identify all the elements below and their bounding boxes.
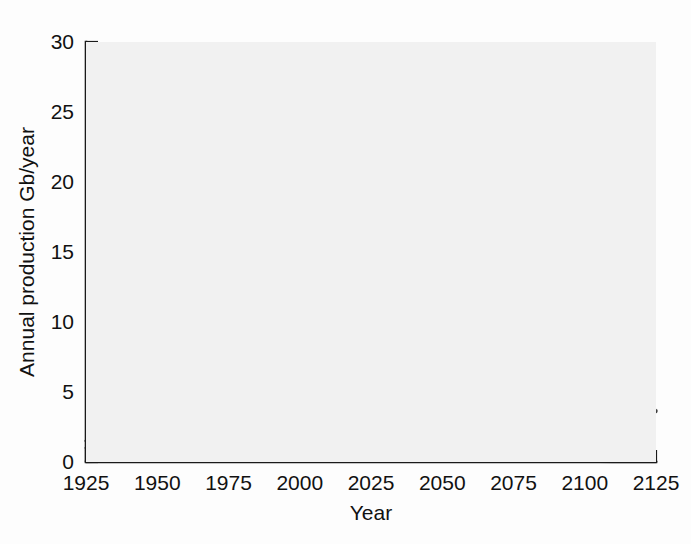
x-tick-label: 2125 <box>633 471 680 494</box>
x-tick-label: 1950 <box>134 471 181 494</box>
y-tick-label: 15 <box>51 240 74 263</box>
y-tick-label: 20 <box>51 170 74 193</box>
chart-figure: 192519501975200020252050207521002125 051… <box>0 0 691 544</box>
x-tick-label: 1925 <box>63 471 110 494</box>
y-tick-label: 0 <box>62 450 74 473</box>
y-tick-label: 30 <box>51 30 74 53</box>
x-tick-label: 2100 <box>561 471 608 494</box>
x-tick-label: 2000 <box>276 471 323 494</box>
x-tick-label: 2025 <box>348 471 395 494</box>
x-tick-label: 2050 <box>419 471 466 494</box>
y-tick-label: 25 <box>51 100 74 123</box>
y-tick-label: 5 <box>62 380 74 403</box>
plot-background <box>86 42 656 462</box>
y-axis-title: Annual production Gb/year <box>15 127 38 377</box>
x-tick-label: 2075 <box>490 471 537 494</box>
x-axis-title: Year <box>350 501 392 524</box>
y-tick-label: 10 <box>51 310 74 333</box>
x-tick-label: 1975 <box>205 471 252 494</box>
x-tick-labels: 192519501975200020252050207521002125 <box>63 471 680 494</box>
y-tick-labels: 051015202530 <box>51 30 74 473</box>
